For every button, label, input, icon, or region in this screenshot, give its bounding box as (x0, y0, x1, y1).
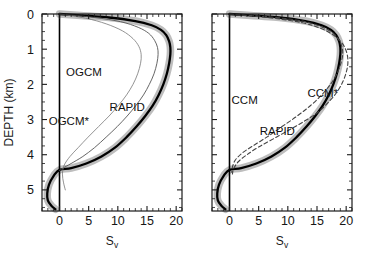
panel-right: 05101520SvCCMCCM*RAPID (212, 14, 353, 250)
y-tick-label: 4 (27, 148, 34, 162)
plot-frame (212, 14, 352, 211)
x-tick-label: 15 (140, 214, 154, 228)
y-tick-label: 5 (27, 183, 34, 197)
curve-ogcm (60, 14, 159, 171)
y-tick-label: 1 (27, 43, 34, 57)
x-tick-label: 5 (85, 214, 92, 228)
x-tick-label: 15 (310, 214, 324, 228)
x-tick-label: 10 (281, 214, 295, 228)
y-tick-label: 2 (27, 78, 34, 92)
y-axis-label: DEPTH (km) (2, 79, 16, 147)
x-tick-label: 0 (56, 214, 63, 228)
two-panel-depth-profile-chart: 05101520012345DEPTH (km)SvOGCMOGCM*RAPID… (0, 0, 379, 265)
curve-annotation-ccm-star: CCM* (307, 87, 338, 99)
curve-annotation-ccm: CCM (232, 94, 258, 106)
x-tick-label: 5 (255, 214, 262, 228)
curve-annotation-rapid: RAPID (260, 125, 295, 137)
x-tick-label: 20 (169, 214, 183, 228)
x-axis-label: Sv (276, 234, 289, 250)
curve-annotation-rapid: RAPID (110, 101, 145, 113)
uncertainty-band-rapid (217, 14, 340, 209)
y-tick-label: 3 (27, 113, 34, 127)
x-tick-label: 0 (226, 214, 233, 228)
figure-canvas: 05101520012345DEPTH (km)SvOGCMOGCM*RAPID… (0, 0, 379, 265)
x-tick-label: 10 (111, 214, 125, 228)
curve-annotation-ogcm-star: OGCM* (49, 115, 90, 127)
y-tick-label: 0 (27, 8, 34, 22)
curve-annotation-ogcm: OGCM (66, 66, 102, 78)
x-axis-label: Sv (106, 234, 119, 250)
x-tick-label: 20 (339, 214, 353, 228)
panel-left: 05101520012345DEPTH (km)SvOGCMOGCM*RAPID (2, 8, 183, 251)
